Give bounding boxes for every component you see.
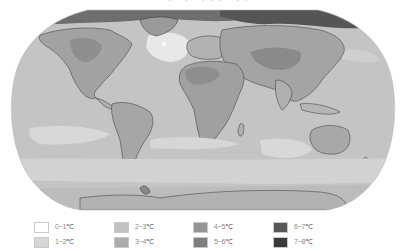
legend-swatch bbox=[114, 222, 129, 233]
legend-swatch bbox=[34, 222, 49, 233]
legend-swatch bbox=[193, 222, 208, 233]
legend-item: 6~7℃ bbox=[273, 221, 313, 233]
legend-label: 4~5℃ bbox=[214, 223, 233, 231]
legend-label: 7~8℃ bbox=[294, 238, 313, 246]
legend-swatch bbox=[273, 237, 288, 248]
legend-item: 7~8℃ bbox=[273, 236, 313, 248]
legend-label: 6~7℃ bbox=[294, 223, 313, 231]
legend-swatch bbox=[114, 237, 129, 248]
legend-label: 0~1℃ bbox=[55, 223, 74, 231]
legend-swatch bbox=[193, 237, 208, 248]
legend-item: 0~1℃ bbox=[34, 221, 74, 233]
legend-label: 1~2℃ bbox=[55, 238, 74, 246]
legend-item: 4~5℃ bbox=[193, 221, 233, 233]
legend-label: 5~6℃ bbox=[214, 238, 233, 246]
legend-item: 2~3℃ bbox=[114, 221, 154, 233]
legend-label: 2~3℃ bbox=[135, 223, 154, 231]
legend-item: 5~6℃ bbox=[193, 236, 233, 248]
legend-swatch bbox=[34, 237, 49, 248]
legend-item: 1~2℃ bbox=[34, 236, 74, 248]
legend-swatch bbox=[273, 222, 288, 233]
world-map bbox=[0, 0, 405, 215]
legend-item: 3~4℃ bbox=[114, 236, 154, 248]
legend-label: 3~4℃ bbox=[135, 238, 154, 246]
